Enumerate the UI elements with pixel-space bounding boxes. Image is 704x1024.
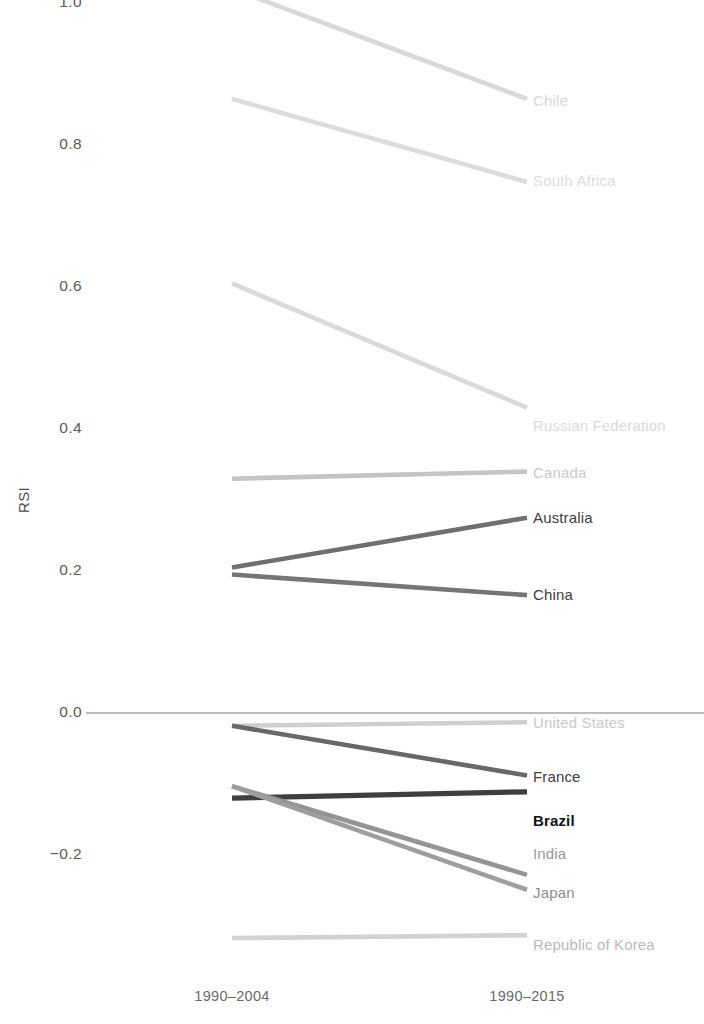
series-label-republic-of-korea[interactable]: Republic of Korea [533,936,655,953]
series-line[interactable] [232,575,527,596]
series-line[interactable] [232,99,527,182]
series-line[interactable] [232,283,527,407]
series-label-india[interactable]: India [533,845,566,862]
slope-chart: RSI 1.00.80.60.40.20.0−0.2 ChileSouth Af… [0,0,704,1024]
series-line[interactable] [232,726,527,776]
series-label-canada[interactable]: Canada [533,464,586,481]
series-line[interactable] [232,0,527,99]
series-line[interactable] [232,786,527,890]
series-label-united-states[interactable]: United States [533,714,625,731]
series-label-south-africa[interactable]: South Africa [533,172,616,189]
x-axis-tick-label: 1990–2004 [152,988,312,1004]
series-label-chile[interactable]: Chile [533,92,568,109]
x-axis-tick-label: 1990–2015 [447,988,607,1004]
series-label-russian-federation[interactable]: Russian Federation [533,417,666,434]
series-label-france[interactable]: France [533,768,581,785]
series-line[interactable] [232,472,527,479]
series-label-china[interactable]: China [533,586,573,603]
series-line[interactable] [232,935,527,938]
series-label-brazil[interactable]: Brazil [533,812,575,829]
series-line[interactable] [232,722,527,726]
series-label-japan[interactable]: Japan [533,884,575,901]
series-label-australia[interactable]: Australia [533,509,593,526]
plot-area [0,0,704,1024]
series-line[interactable] [232,518,527,568]
